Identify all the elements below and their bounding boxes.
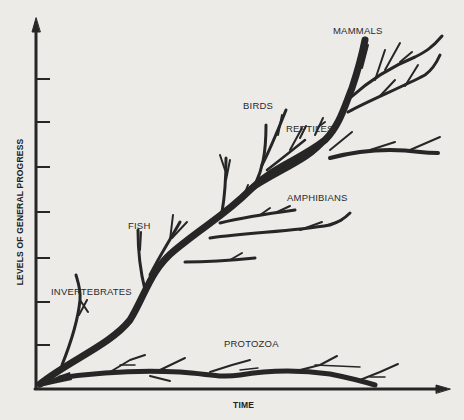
branch-reptiles [330,150,438,158]
tree-diagram [0,0,464,420]
axes [32,18,450,393]
label-fish: FISH [128,220,150,231]
x-axis-label: TIME [233,400,254,410]
label-invertebrates: INVERTEBRATES [51,286,132,297]
branch-protozoa [60,371,375,385]
main-trunk [40,40,365,384]
label-reptiles: REPTILES [286,123,334,134]
x-axis-arrow-icon [436,385,450,393]
branches [36,36,442,388]
label-protozoa: PROTOZOA [224,338,279,349]
y-axis-label: LEVELS OF GENERAL PROGRESS [15,139,25,286]
label-birds: BIRDS [243,100,273,111]
y-axis-arrow-icon [32,18,40,32]
y-axis-ticks [36,79,50,345]
label-mammals: MAMMALS [333,25,382,36]
label-amphibians: AMPHIBIANS [287,192,348,203]
